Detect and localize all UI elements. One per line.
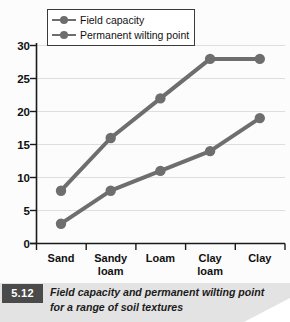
figure-caption-bar: 5.12 Field capacity and permanent wiltin… bbox=[0, 283, 290, 322]
x-tick-label: Clay bbox=[248, 252, 271, 265]
figure-container: 30 25 20 15 10 5 0 bbox=[0, 0, 290, 322]
chart-legend: Field capacity Permanent wilting point bbox=[47, 9, 195, 46]
legend-line-marker-icon bbox=[52, 14, 76, 26]
x-axis-tick-labels: Sand Sandy loam Loam Clay loam Clay bbox=[0, 248, 290, 284]
legend-item-field-capacity: Field capacity bbox=[52, 12, 189, 27]
axis-lines bbox=[30, 43, 285, 244]
legend-label: Field capacity bbox=[80, 14, 144, 26]
legend-label: Permanent wilting point bbox=[80, 29, 189, 41]
x-tick-label: Sandy loam bbox=[94, 252, 127, 278]
legend-line-marker-icon bbox=[52, 29, 76, 41]
series-markers-permanent-wilting-point bbox=[56, 113, 265, 229]
legend-item-permanent-wilting-point: Permanent wilting point bbox=[52, 27, 189, 42]
x-tick-label: Sand bbox=[48, 252, 75, 265]
x-tick-label: Loam bbox=[146, 252, 175, 265]
x-tick-label: Clay loam bbox=[197, 252, 223, 278]
caption-corner-cut bbox=[244, 298, 290, 322]
chart-plot-region: 30 25 20 15 10 5 0 bbox=[0, 0, 290, 282]
y-axis-ticks bbox=[30, 46, 37, 244]
figure-number-badge: 5.12 bbox=[2, 284, 43, 303]
